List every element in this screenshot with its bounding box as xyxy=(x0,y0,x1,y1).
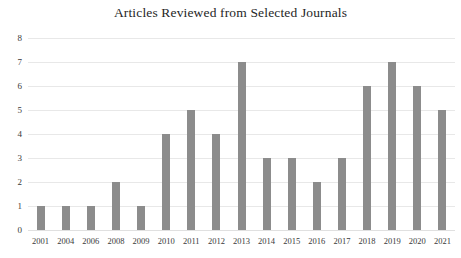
gridline xyxy=(28,230,455,231)
bar xyxy=(388,62,396,230)
chart-title: Articles Reviewed from Selected Journals xyxy=(0,5,461,21)
bar xyxy=(162,134,170,230)
y-axis-tick-label: 5 xyxy=(0,105,22,115)
bar xyxy=(238,62,246,230)
bar xyxy=(87,206,95,230)
bar xyxy=(187,110,195,230)
plot-area xyxy=(28,38,455,230)
y-axis-tick-label: 7 xyxy=(0,57,22,67)
gridline xyxy=(28,38,455,39)
x-axis-tick-label: 2021 xyxy=(427,236,457,246)
bar xyxy=(413,86,421,230)
bar xyxy=(62,206,70,230)
y-axis-tick-label: 1 xyxy=(0,201,22,211)
y-axis-tick-label: 6 xyxy=(0,81,22,91)
y-axis-tick-label: 3 xyxy=(0,153,22,163)
bar xyxy=(363,86,371,230)
bar xyxy=(263,158,271,230)
bar xyxy=(212,134,220,230)
y-axis-tick-label: 2 xyxy=(0,177,22,187)
y-axis-tick-label: 4 xyxy=(0,129,22,139)
bar xyxy=(137,206,145,230)
y-axis-tick-label: 0 xyxy=(0,225,22,235)
bar xyxy=(438,110,446,230)
bar-chart: Articles Reviewed from Selected Journals… xyxy=(0,0,461,258)
bar xyxy=(112,182,120,230)
y-axis-tick-label: 8 xyxy=(0,33,22,43)
bar xyxy=(338,158,346,230)
bar xyxy=(288,158,296,230)
bar xyxy=(313,182,321,230)
bar xyxy=(37,206,45,230)
